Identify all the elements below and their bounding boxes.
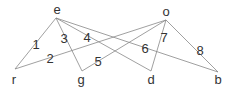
- edge-label: 3: [60, 31, 67, 46]
- edge-label: 5: [94, 54, 101, 69]
- node-label-b: b: [214, 72, 221, 87]
- node-label-g: g: [77, 72, 84, 87]
- edge-label: 2: [46, 51, 53, 66]
- edge-label: 8: [196, 43, 203, 58]
- graph-diagram: 12345678 eorgdb: [0, 0, 232, 92]
- edge-e-b: [56, 18, 218, 72]
- edge-label: 6: [141, 41, 148, 56]
- node-label-o: o: [162, 4, 169, 19]
- edge-label: 1: [32, 37, 39, 52]
- node-label-r: r: [12, 72, 17, 87]
- node-label-d: d: [147, 72, 154, 87]
- edge-label: 7: [160, 30, 167, 45]
- edge-label: 4: [83, 30, 90, 45]
- edge-o-b: [166, 20, 218, 72]
- node-label-e: e: [53, 2, 60, 17]
